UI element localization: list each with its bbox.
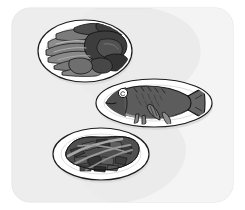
illustration-canvas <box>0 0 245 210</box>
plate-of-chopped-food <box>53 128 150 183</box>
plate-of-strips <box>38 20 133 85</box>
plate-of-fish <box>96 79 213 130</box>
strip-piece-dark <box>90 58 112 73</box>
strip-piece <box>69 58 93 74</box>
food-plates-illustration: Three plates of food illustration Graysc… <box>0 0 245 210</box>
chopped-piece <box>94 166 106 172</box>
